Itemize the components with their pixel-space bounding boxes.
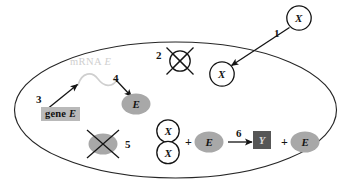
enzyme-e-catalyst-label: E	[206, 137, 213, 148]
molecule-x-inside-label: X	[218, 69, 225, 80]
molecule-x-substrate-top-label: X	[165, 126, 172, 137]
mrna-label: mRNA E	[70, 57, 111, 68]
gene-e-box-name: E	[69, 108, 76, 119]
enzyme-e-label: E	[133, 99, 140, 110]
gene-e-box-prefix: gene	[45, 108, 69, 119]
plus-products: +	[281, 136, 288, 148]
molecule-x-substrate-bottom-label: X	[165, 148, 172, 159]
mrna-label-gene: E	[104, 56, 111, 67]
diagram-canvas: 1 2 3 4 5 6 X X X X E E E + + mRNA E gen…	[0, 0, 350, 192]
plus-reactants: +	[185, 136, 192, 148]
step-3-label: 3	[36, 94, 42, 105]
step-4-label: 4	[113, 73, 119, 84]
gene-e-box: gene E	[41, 107, 80, 121]
mrna-label-prefix: mRNA	[70, 56, 104, 67]
step-5-label: 5	[125, 139, 131, 150]
step-6-label: 6	[236, 128, 242, 139]
diagram-svg	[0, 0, 350, 192]
enzyme-e-released-label: E	[302, 137, 309, 148]
product-y-label: Y	[259, 135, 265, 146]
step-1-label: 1	[274, 28, 280, 39]
molecule-x-outside-label: X	[295, 13, 302, 24]
step-2-label: 2	[156, 50, 162, 61]
product-y-box: Y	[253, 131, 271, 149]
